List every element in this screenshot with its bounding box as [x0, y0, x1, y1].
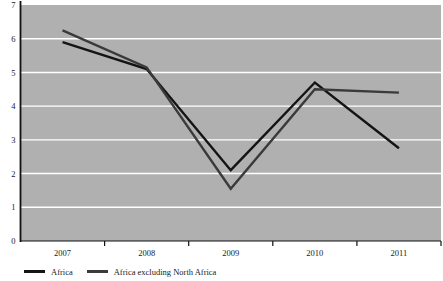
x-axis-tick-label: 2007: [54, 248, 71, 258]
legend-color-swatch: [24, 270, 45, 273]
y-axis-tick-label: 2: [11, 169, 15, 179]
legend-item[interactable]: Africa excluding North Africa: [87, 267, 217, 277]
x-axis-tick-label: 2009: [222, 248, 239, 258]
x-axis-tick-label: 2010: [306, 248, 323, 258]
y-axis-tick-label: 7: [11, 0, 15, 10]
plot-area: 0123456720072008200920102011: [0, 0, 443, 260]
chart-legend: AfricaAfrica excluding North Africa: [0, 262, 443, 281]
legend-color-swatch: [87, 270, 108, 273]
x-axis-tick-label: 2011: [391, 248, 408, 258]
y-axis-tick-label: 5: [11, 68, 15, 78]
line-chart: 0123456720072008200920102011 AfricaAfric…: [0, 0, 443, 281]
legend-label: Africa excluding North Africa: [114, 267, 217, 277]
y-axis-tick-label: 3: [11, 135, 15, 145]
y-axis-tick-label: 1: [11, 202, 15, 212]
y-axis-tick-label: 6: [11, 34, 15, 44]
chart-canvas: 0123456720072008200920102011: [0, 0, 443, 260]
legend-item[interactable]: Africa: [24, 267, 73, 277]
x-axis-tick-label: 2008: [138, 248, 155, 258]
legend-label: Africa: [51, 267, 73, 277]
y-axis-tick-label: 4: [11, 101, 16, 111]
y-axis-tick-label: 0: [11, 236, 15, 246]
